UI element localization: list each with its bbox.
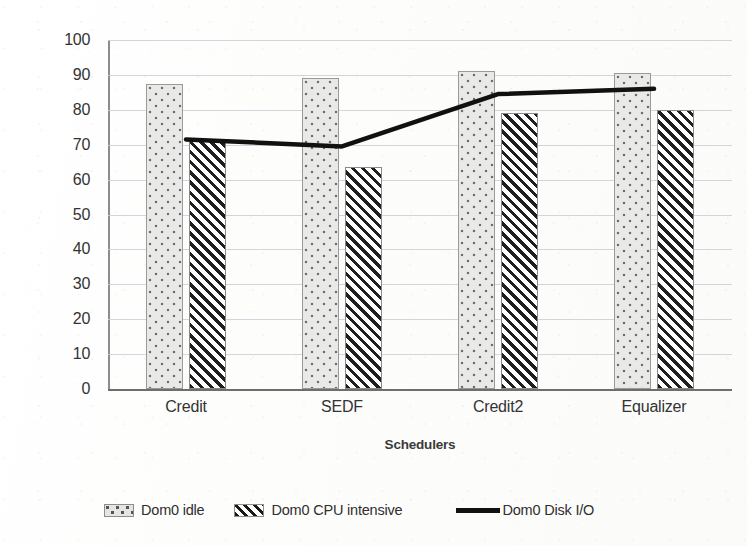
- bar-dom0-idle: [458, 71, 495, 389]
- bar-dom0-cpu-intensive: [345, 167, 382, 389]
- throughput-bar-chart: Throughput (Mbits/sec) 01020304050607080…: [0, 0, 747, 546]
- legend-item: Dom0 idle: [104, 502, 204, 518]
- legend-dotted-swatch-icon: [104, 504, 134, 517]
- x-axis-title: Schedulers: [108, 437, 732, 452]
- x-tick-label: SEDF: [321, 398, 363, 416]
- legend-hatched-swatch-icon: [234, 504, 264, 517]
- y-tick-label: 20: [44, 310, 90, 328]
- bar-dom0-cpu-intensive: [657, 110, 694, 389]
- y-tick-label: 10: [44, 345, 90, 363]
- x-tick-label: Credit2: [473, 398, 523, 416]
- dom0-disk-io-line: [186, 89, 654, 147]
- legend-item: Dom0 CPU intensive: [234, 502, 402, 518]
- y-tick-label: 70: [44, 136, 90, 154]
- bar-group: [458, 40, 538, 389]
- y-tick-label: 80: [44, 101, 90, 119]
- y-tick-label: 40: [44, 240, 90, 258]
- bar-dom0-idle: [614, 73, 651, 389]
- legend-label: Dom0 idle: [141, 502, 204, 518]
- legend-label: Dom0 Disk I/O: [502, 502, 594, 518]
- legend-line-swatch-icon: [456, 508, 500, 513]
- x-tick-label: Credit: [165, 398, 206, 416]
- y-tick-label: 100: [44, 31, 90, 49]
- plot-area: [108, 40, 732, 389]
- bar-dom0-idle: [302, 78, 339, 389]
- bar-group: [146, 40, 226, 389]
- y-tick-label: 50: [44, 206, 90, 224]
- y-tick-label: 30: [44, 275, 90, 293]
- bar-dom0-idle: [146, 84, 183, 389]
- bar-group: [614, 40, 694, 389]
- bar-dom0-cpu-intensive: [189, 139, 226, 389]
- y-tick-label: 60: [44, 171, 90, 189]
- bar-group: [302, 40, 382, 389]
- x-axis-baseline: [108, 389, 732, 391]
- y-tick-label: 0: [44, 380, 90, 398]
- bar-dom0-cpu-intensive: [501, 113, 538, 389]
- x-axis-tick-labels: CreditSEDFCredit2Equalizer: [108, 398, 732, 428]
- legend-item: Dom0 Disk I/O: [456, 502, 594, 518]
- x-tick-label: Equalizer: [622, 398, 687, 416]
- legend-label: Dom0 CPU intensive: [271, 502, 402, 518]
- y-axis-tick-labels: 0102030405060708090100: [44, 0, 90, 546]
- y-tick-label: 90: [44, 66, 90, 84]
- chart-legend: Dom0 idleDom0 CPU intensiveDom0 Disk I/O: [104, 495, 724, 525]
